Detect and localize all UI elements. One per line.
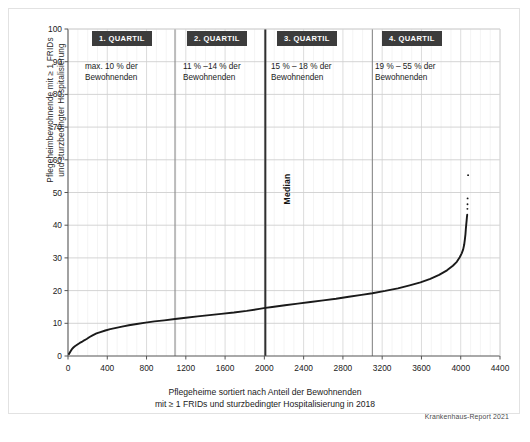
quartil-4-description: 19 % – 55 % der Bewohnenden [375,61,436,83]
quartil-1-line1: max. 10 % der [85,62,138,71]
data-outlier-point [467,174,469,176]
quartil-2-line2: Bewohnenden [183,73,235,82]
x-tick-label: 2400 [294,363,313,373]
x-tick-label: 4400 [491,363,510,373]
x-tick-label: 400 [100,363,114,373]
quartil-4-line2: Bewohnenden [375,73,427,82]
data-line [69,215,467,354]
x-tick-label: 1600 [216,363,235,373]
x-axis-caption-line1: Pflegeheime sortiert nach Anteil der Bew… [168,387,361,397]
y-axis-label-line2: und sturzbedingter Hospitalisierung [56,43,66,177]
quartil-4-line1: 19 % – 55 % der [375,62,436,71]
y-tick-label: 20 [53,286,63,296]
y-tick-label: 10 [53,318,63,328]
data-outlier-point [467,203,469,205]
quartil-2-line1: 11 % –14 % der [183,62,241,71]
y-axis-label: Pflegeheimbewohnende mit ≥ 1 FRIDs und s… [45,0,67,235]
median-label: Median [282,159,292,219]
quartil-2-description: 11 % –14 % der Bewohnenden [183,61,241,83]
data-outlier-point [466,208,468,210]
source-credit: Krankenhaus-Report 2021 [425,413,509,420]
badge-quartil-1: 1. QUARTIL [92,31,152,46]
quartil-3-line1: 15 % – 18 % der [271,62,332,71]
x-axis-caption: Pflegeheime sortiert nach Anteil der Bew… [9,387,521,410]
badge-quartil-4: 4. QUARTIL [382,31,442,46]
badge-quartil-2: 2. QUARTIL [187,31,247,46]
x-tick-label: 0 [66,363,71,373]
y-axis-label-line1: Pflegeheimbewohnende mit ≥ 1 FRIDs [45,37,55,182]
chart-figure: 0102030405060708090100040080012001600200… [8,8,520,414]
quartil-3-line2: Bewohnenden [271,73,323,82]
x-tick-label: 4000 [451,363,470,373]
figure-stage: 0102030405060708090100040080012001600200… [0,0,530,442]
quartil-1-description: max. 10 % der Bewohnenden [85,61,138,83]
x-tick-label: 3200 [373,363,392,373]
x-tick-label: 800 [140,363,154,373]
quartil-3-description: 15 % – 18 % der Bewohnenden [271,61,332,83]
data-outlier-point [467,197,469,199]
x-axis-caption-line2: mit ≥ 1 FRIDs und sturzbedingter Hospita… [155,399,375,409]
badge-quartil-3: 3. QUARTIL [277,31,337,46]
x-tick-label: 2000 [255,363,274,373]
x-tick-label: 3600 [412,363,431,373]
quartil-1-line2: Bewohnenden [85,73,137,82]
x-tick-label: 2800 [334,363,353,373]
x-tick-label: 1200 [176,363,195,373]
y-tick-label: 30 [53,253,63,263]
y-tick-label: 0 [57,351,62,361]
